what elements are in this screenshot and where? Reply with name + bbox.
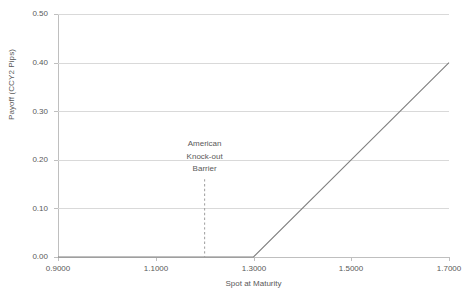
barrier-annotation: American Knock-out Barrier <box>145 138 265 176</box>
x-axis-title: Spot at Maturity <box>58 279 449 288</box>
barrier-annotation-line-2: Knock-out <box>145 151 265 164</box>
barrier-annotation-line-1: American <box>145 138 265 151</box>
barrier-annotation-line-3: Barrier <box>145 163 265 176</box>
payoff-chart: Payoff (CCY2 Pips) 0.50 0.40 0.30 0.20 0… <box>0 0 476 300</box>
